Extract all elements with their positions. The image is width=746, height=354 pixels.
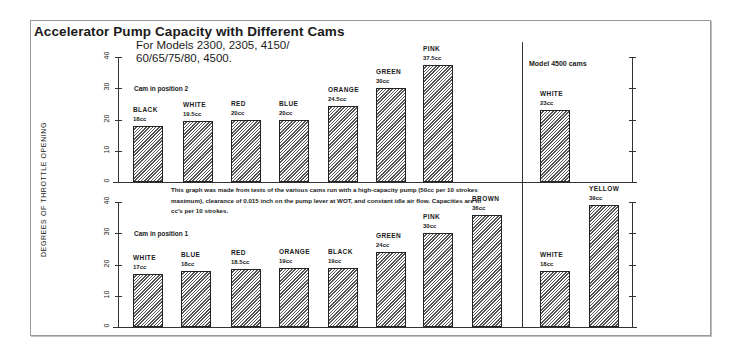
y-tick: [115, 296, 122, 297]
bar-value-label: 18.5cc: [231, 259, 249, 265]
bar-red: [231, 120, 261, 182]
bar-orange: [328, 106, 358, 182]
y-tick-label: 0: [103, 174, 110, 188]
y-tick: [115, 120, 122, 121]
bar-category-label: RED: [231, 100, 246, 107]
y-tick: [115, 327, 122, 328]
bar-white: [540, 110, 570, 182]
test-conditions-note: This graph was made from tests of the va…: [171, 185, 491, 217]
bar-white: [133, 274, 163, 327]
y-tick-label: 20: [103, 257, 110, 271]
bar-category-label: PINK: [423, 45, 440, 52]
bar-red: [231, 269, 261, 327]
model-divider: [522, 42, 523, 327]
y-tick-label: 10: [103, 288, 110, 302]
bar-category-label: BLACK: [133, 106, 158, 113]
bottom-panel-label: Cam in position 1: [134, 230, 188, 237]
y-tick-label: 40: [103, 194, 110, 208]
y-tick: [115, 151, 122, 152]
right-y-tick: [629, 57, 636, 58]
bar-category-label: ORANGE: [279, 248, 310, 255]
bar-value-label: 20cc: [231, 110, 244, 116]
chart-title: Accelerator Pump Capacity with Different…: [34, 24, 345, 39]
bar-value-label: 23cc: [540, 100, 553, 106]
right-y-tick: [629, 120, 636, 121]
bar-blue: [181, 271, 211, 327]
bottom-x-axis: [113, 327, 637, 328]
y-axis-label: DEGREES OF THROTTLE OPENING: [40, 100, 47, 280]
y-tick-label: 0: [103, 319, 110, 333]
bar-category-label: BLUE: [181, 251, 200, 258]
bar-white: [540, 271, 570, 327]
right-y-tick: [629, 233, 636, 234]
bar-value-label: 20cc: [279, 110, 292, 116]
bar-category-label: YELLOW: [589, 185, 619, 192]
subtitle-line-1: For Models 2300, 2305, 4150/: [136, 39, 289, 52]
subtitle-line-2: 60/65/75/80, 4500.: [136, 52, 289, 65]
bar-value-label: 18cc: [133, 116, 146, 122]
right-top-x-axis: [522, 182, 637, 183]
bar-value-label: 36cc: [472, 205, 485, 211]
bar-category-label: WHITE: [540, 251, 563, 258]
bar-green: [376, 252, 406, 327]
y-tick: [115, 202, 122, 203]
right-y-tick: [629, 265, 636, 266]
bar-value-label: 19cc: [279, 258, 292, 264]
bar-value-label: 37.5cc: [423, 55, 441, 61]
y-tick-label: 10: [103, 143, 110, 157]
y-tick: [115, 57, 122, 58]
y-tick-label: 30: [103, 225, 110, 239]
chart-subtitle: For Models 2300, 2305, 4150/ 60/65/75/80…: [136, 39, 289, 65]
bar-category-label: BLACK: [328, 248, 353, 255]
bar-value-label: 18cc: [181, 261, 194, 267]
y-tick: [115, 182, 122, 183]
y-tick: [115, 233, 122, 234]
bar-category-label: BROWN: [472, 195, 499, 202]
bar-value-label: 30cc: [423, 223, 436, 229]
model-4500-label: Model 4500 cams: [529, 60, 587, 67]
bar-category-label: WHITE: [183, 101, 206, 108]
y-tick-label: 40: [103, 49, 110, 63]
bar-category-label: GREEN: [376, 232, 401, 239]
bar-value-label: 30cc: [376, 78, 389, 84]
y-tick-label: 30: [103, 80, 110, 94]
bar-value-label: 19.5cc: [183, 111, 201, 117]
bar-value-label: 17cc: [133, 264, 146, 270]
bar-blue: [279, 120, 309, 182]
bar-value-label: 18cc: [540, 261, 553, 267]
bar-pink: [423, 65, 453, 182]
bar-category-label: WHITE: [133, 254, 156, 261]
bar-value-label: 19cc: [328, 258, 341, 264]
right-y-tick: [629, 296, 636, 297]
bar-category-label: GREEN: [376, 68, 401, 75]
bar-category-label: RED: [231, 249, 246, 256]
top-panel-label: Cam in position 2: [134, 85, 188, 92]
right-y-tick: [629, 151, 636, 152]
bar-category-label: WHITE: [540, 90, 563, 97]
bar-orange: [279, 268, 309, 327]
bar-pink: [423, 233, 453, 327]
bar-value-label: 24.5cc: [328, 96, 346, 102]
bar-yellow: [589, 205, 619, 327]
top-x-axis: [113, 182, 522, 183]
right-y-tick: [629, 88, 636, 89]
bar-white: [183, 121, 213, 182]
bar-category-label: ORANGE: [328, 86, 359, 93]
bar-black: [328, 268, 358, 327]
bar-value-label: 24cc: [376, 242, 389, 248]
right-y-tick: [629, 202, 636, 203]
bar-brown: [472, 215, 502, 327]
y-tick: [115, 88, 122, 89]
bar-black: [133, 126, 163, 182]
bar-category-label: BLUE: [279, 100, 298, 107]
bar-category-label: PINK: [423, 213, 440, 220]
bar-green: [376, 88, 406, 182]
y-tick-label: 20: [103, 112, 110, 126]
y-tick: [115, 265, 122, 266]
bar-value-label: 39cc: [589, 195, 602, 201]
